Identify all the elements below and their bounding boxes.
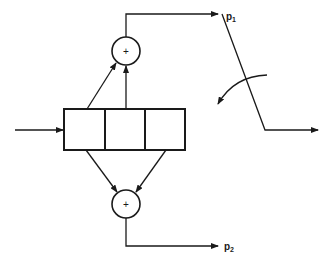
bottom-adder: +: [112, 190, 140, 218]
convolutional-encoder-diagram: + + p1 p2: [0, 0, 327, 261]
rotation-arrow-icon: [218, 75, 267, 104]
tap-arrow-cell1-top: [87, 63, 116, 109]
output-label-p1: p1: [226, 11, 236, 23]
shift-register: [64, 109, 185, 150]
top-adder: +: [112, 37, 140, 65]
switch-arm: [222, 14, 318, 130]
tap-arrow-cell1-bottom: [86, 150, 117, 192]
tap-arrow-cell3-bottom: [136, 150, 166, 192]
output-label-p2: p2: [224, 241, 234, 253]
output-arrow-p2: [126, 218, 218, 246]
plus-icon: +: [123, 46, 129, 57]
output-arrow-p1: [126, 14, 218, 37]
plus-icon: +: [123, 199, 129, 210]
register-outline: [64, 109, 185, 150]
